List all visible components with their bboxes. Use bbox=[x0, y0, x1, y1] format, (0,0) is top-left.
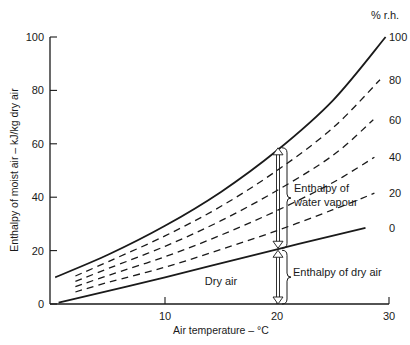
water-vapour-label-line2: water vapour bbox=[293, 196, 358, 208]
water-vapour-label-line1: Enthalpy of bbox=[294, 182, 350, 194]
x-tick-label: 20 bbox=[271, 310, 283, 322]
x-axis-title: Air temperature – °C bbox=[173, 324, 269, 336]
rh-curve-80 bbox=[75, 80, 380, 276]
y-tick-label: 0 bbox=[38, 298, 44, 310]
arrow-head-up bbox=[273, 148, 283, 155]
arrow-head-up bbox=[273, 250, 283, 257]
rh-curves bbox=[55, 37, 385, 303]
x-tick-label: 30 bbox=[383, 310, 395, 322]
rh-curve-100 bbox=[55, 37, 385, 277]
dry-air-label: Dry air bbox=[205, 275, 238, 287]
arrow-head-down bbox=[273, 241, 283, 248]
arrow-head-down bbox=[273, 297, 283, 304]
brace bbox=[282, 148, 291, 248]
dry-air-enthalpy-label: Enthalpy of dry air bbox=[293, 266, 382, 278]
enthalpy-arrows bbox=[273, 148, 291, 304]
y-axis-title: Enthalpy of moist air – kJ/kg dry air bbox=[8, 88, 20, 252]
rh-curve-labels: 100806040200 bbox=[389, 31, 407, 234]
rh-label-20: 20 bbox=[389, 187, 401, 199]
rh-label-0: 0 bbox=[389, 222, 395, 234]
y-tick-label: 100 bbox=[26, 31, 44, 43]
y-tick-label: 60 bbox=[32, 138, 44, 150]
rh-label-80: 80 bbox=[389, 74, 401, 86]
y-tick-label: 20 bbox=[32, 245, 44, 257]
psychrometric-enthalpy-chart: 020406080100102030 100806040200 % r.h. A… bbox=[0, 0, 410, 345]
brace bbox=[282, 250, 291, 304]
legend-title: % r.h. bbox=[371, 9, 399, 21]
y-tick-label: 40 bbox=[32, 191, 44, 203]
y-tick-label: 80 bbox=[32, 84, 44, 96]
rh-label-40: 40 bbox=[389, 151, 401, 163]
rh-label-60: 60 bbox=[389, 114, 401, 126]
rh-label-100: 100 bbox=[389, 31, 407, 43]
x-tick-label: 10 bbox=[159, 310, 171, 322]
